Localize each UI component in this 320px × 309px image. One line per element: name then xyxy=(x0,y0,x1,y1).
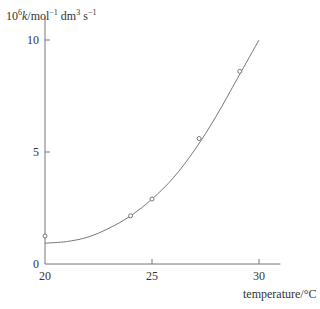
data-point xyxy=(129,214,133,218)
axes xyxy=(45,18,280,264)
fitted-curve xyxy=(45,40,259,243)
x-tick-label: 30 xyxy=(253,269,265,283)
data-point xyxy=(197,137,201,141)
y-tick-label: 5 xyxy=(33,145,39,159)
chart-canvas: 0510202530 xyxy=(0,0,320,309)
data-point xyxy=(43,234,47,238)
y-tick-label: 10 xyxy=(27,33,39,47)
tick-marks: 0510202530 xyxy=(27,33,265,283)
x-axis-label: temperature/°C xyxy=(243,287,316,302)
y-axis-label: 106k/mol−1 dm3 s−1 xyxy=(6,8,96,24)
x-tick-label: 20 xyxy=(39,269,51,283)
data-point xyxy=(150,197,154,201)
data-point xyxy=(238,69,242,73)
data-points xyxy=(43,69,242,238)
x-tick-label: 25 xyxy=(146,269,158,283)
